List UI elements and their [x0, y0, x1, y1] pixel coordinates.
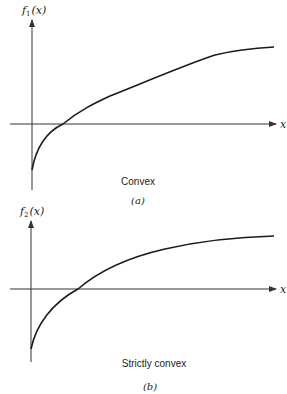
x-label-a: x [280, 118, 287, 131]
panel-tag-b: (b) [143, 381, 157, 392]
figure: f1(x) x Convex (a) f2(x) x Strictly conv… [0, 0, 287, 394]
curve-f1 [32, 47, 274, 170]
caption-a: Convex [121, 176, 155, 187]
panel-b: f2(x) x Strictly convex (b) [10, 205, 287, 392]
panel-tag-a: (a) [131, 195, 145, 206]
y-label-a: f1(x) [21, 4, 46, 18]
x-label-b: x [280, 283, 287, 296]
y-label-b: f2(x) [19, 205, 44, 219]
curve-f2 [31, 236, 274, 349]
caption-b: Strictly convex [122, 358, 186, 369]
panel-a: f1(x) x Convex (a) [10, 4, 287, 206]
